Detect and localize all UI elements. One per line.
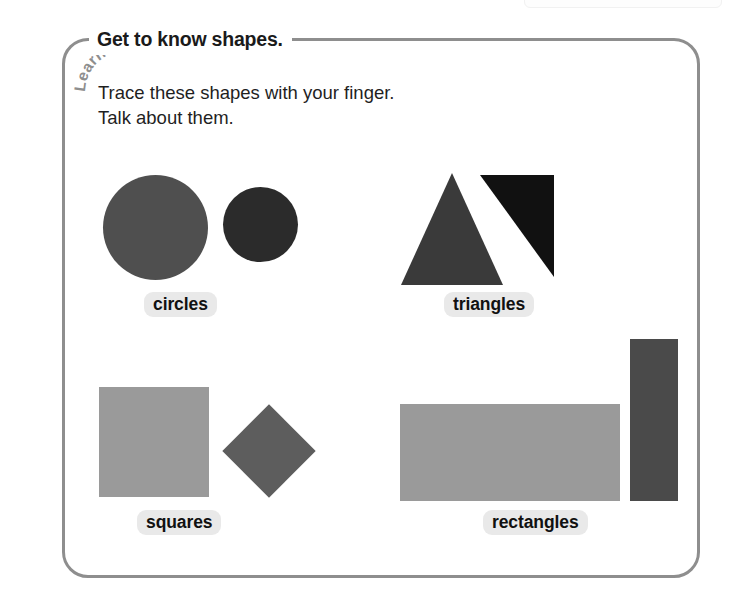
large-circle: [103, 175, 208, 280]
shape-group-circles: circles: [95, 159, 365, 331]
diamond-square: [222, 404, 315, 497]
shape-group-rectangles: rectangles: [400, 385, 675, 545]
shape-label-triangles: triangles: [444, 292, 534, 317]
instruction-line-2: Talk about them.: [98, 105, 395, 130]
shape-label-rectangles: rectangles: [483, 510, 588, 535]
learn-panel: Learn Get to know shapes. Trace these sh…: [62, 38, 700, 578]
large-square: [99, 387, 209, 497]
circles-stage: circles: [95, 159, 365, 331]
instructions: Trace these shapes with your finger. Tal…: [98, 80, 395, 130]
shape-group-squares: squares: [95, 385, 365, 545]
wide-rectangle: [400, 404, 620, 501]
shape-label-squares: squares: [137, 510, 221, 535]
triangles-stage: triangles: [400, 159, 675, 331]
panel-title-container: Get to know shapes.: [89, 25, 292, 55]
shape-group-triangles: triangles: [400, 159, 675, 331]
shape-label-circles: circles: [144, 292, 217, 317]
page-title: Get to know shapes.: [97, 30, 283, 50]
clipped-top-box: [524, 0, 722, 8]
small-circle: [223, 187, 298, 262]
instruction-line-1: Trace these shapes with your finger.: [98, 80, 395, 105]
tall-rectangle: [630, 339, 678, 501]
right-triangle: [480, 175, 554, 277]
rectangles-stage: rectangles: [400, 385, 675, 545]
squares-stage: squares: [95, 385, 365, 545]
